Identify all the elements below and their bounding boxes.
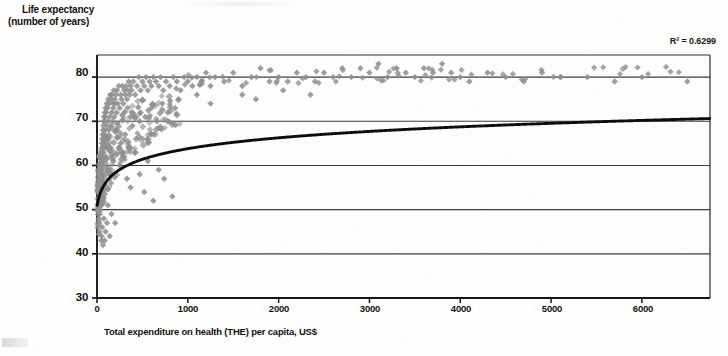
chart-figure: Life expectancy (number of years) R² = 0…: [0, 0, 728, 356]
gridlines: [97, 77, 710, 298]
axis-ticks: [92, 77, 642, 303]
plot-area: [0, 0, 728, 356]
trend-line: [97, 119, 709, 206]
scatter-points: [94, 61, 691, 249]
plot-frame: [97, 55, 710, 298]
